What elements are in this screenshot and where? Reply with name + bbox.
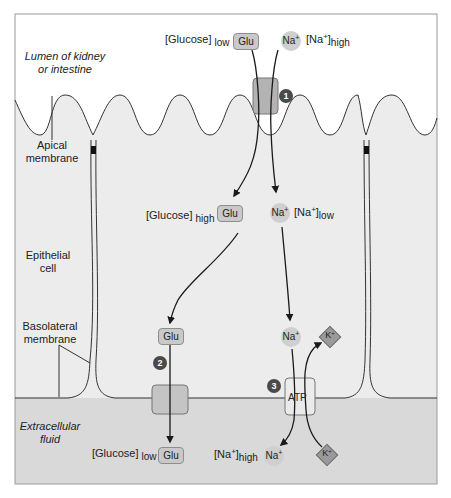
ecf-glucose-molecule: Glu <box>158 447 184 464</box>
cell-potassium-ion: K+ <box>322 329 338 345</box>
cell-glucose-molecule: Glu <box>217 205 243 222</box>
lumen-sodium-concentration: [Na+]high <box>306 33 350 47</box>
tight-junction-left <box>91 146 96 154</box>
cell-sodium-concentration: [Na+]low <box>294 206 334 220</box>
ecf-sodium-ion: Na+ <box>264 446 284 466</box>
basolateral-membrane-label: Basolateral membrane <box>18 320 82 346</box>
atp-label: ATP <box>288 392 307 403</box>
step-1-badge: 1 <box>279 89 293 103</box>
ecf-potassium-ion: K+ <box>319 447 335 463</box>
lumen-label: Lumen of kidney or intestine <box>20 50 110 76</box>
lumen-sodium-ion: Na+ <box>281 31 301 51</box>
cell-glucose-basolateral: Glu <box>158 328 184 345</box>
lumen-glucose-concentration: [Glucose] low <box>165 33 230 46</box>
extracellular-fluid-label: Extracellular fluid <box>18 420 82 446</box>
ecf-glucose-concentration: [Glucose] low <box>92 447 157 460</box>
step-3-badge: 3 <box>267 379 281 393</box>
cell-glucose-concentration: [Glucose] high <box>146 209 214 222</box>
cell-sodium-ion: Na+ <box>270 203 290 223</box>
tight-junction-right <box>364 146 369 154</box>
sglt-transporter <box>253 78 278 114</box>
cell-sodium-basolateral: Na+ <box>281 327 301 347</box>
step-2-badge: 2 <box>153 356 167 370</box>
ecf-sodium-concentration: [Na+]high <box>214 448 258 462</box>
lumen-glucose-molecule: Glu <box>233 33 259 50</box>
apical-membrane-label: Apical membrane <box>20 139 84 165</box>
epithelial-cell-label: Epithelial cell <box>18 249 78 275</box>
